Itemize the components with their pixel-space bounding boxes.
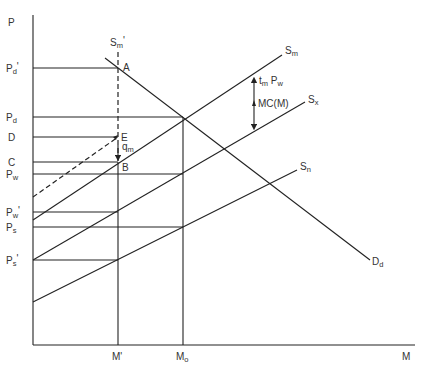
label-c: C (8, 157, 15, 168)
mc-arrow-tick-icon (252, 100, 256, 106)
label-pd: Pd (6, 112, 17, 125)
label-ps: Ps (6, 222, 17, 235)
label-d: D (8, 132, 15, 143)
point-a-label: A (123, 62, 130, 73)
label-tariff: tm Pw (259, 75, 283, 88)
label-pw-prime: Pw' (6, 205, 20, 220)
label-qm: qm (122, 141, 134, 154)
label-curve-sm: Sm (285, 45, 298, 58)
label-m-o: Mo (176, 351, 189, 364)
label-mc: MC(M) (258, 98, 289, 109)
curve-sx (33, 102, 305, 260)
point-b-label: B (122, 162, 129, 173)
label-ps-prime: Ps' (6, 253, 18, 268)
y-axis-label: P (8, 17, 15, 28)
x-axis-label: M (402, 351, 410, 362)
curve-sm-shifted-dashed (33, 137, 118, 197)
curve-sn (33, 170, 297, 302)
label-m-prime: M' (112, 351, 122, 362)
label-curve-dd: Dd (372, 256, 383, 269)
curve-dd (105, 58, 370, 260)
label-pw: Pw (6, 169, 19, 182)
label-curve-sx: Sx (308, 94, 319, 107)
label-pd-prime: Pd' (6, 61, 19, 76)
label-sm-prime: Sm' (110, 35, 125, 50)
import-tariff-quota-diagram: P M Pd' Pd D C Pw Pw' Ps Ps' M' Mo Sm' S… (0, 0, 427, 366)
label-curve-sn: Sn (300, 161, 311, 174)
